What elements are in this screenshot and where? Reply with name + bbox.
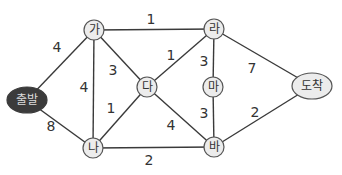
edge-weight-da-ra: 1 bbox=[167, 47, 176, 63]
node-label-ga: 가 bbox=[89, 23, 100, 37]
edge-weight-ma-ba: 3 bbox=[200, 105, 209, 121]
edge-weight-start-na: 8 bbox=[47, 118, 56, 134]
edge-weight-da-na: 1 bbox=[107, 100, 116, 116]
edge-weight-da-ba: 4 bbox=[167, 117, 176, 133]
edge-weight-ga-da: 3 bbox=[109, 62, 118, 78]
edge-weight-ga-na: 4 bbox=[80, 79, 89, 95]
node-ra: 라 bbox=[204, 19, 224, 39]
edge-ga-da bbox=[94, 30, 147, 87]
edge-na-ba bbox=[93, 147, 214, 148]
edge-weight-ga-ra: 1 bbox=[147, 11, 156, 27]
node-ga: 가 bbox=[84, 20, 104, 40]
edge-ga-na bbox=[93, 30, 94, 148]
node-label-start: 출발 bbox=[16, 93, 38, 107]
node-end: 도착 bbox=[292, 73, 332, 99]
edge-weight-start-ga: 4 bbox=[53, 39, 62, 55]
graph-diagram: 4814311433722 출발가나다라마바도착 bbox=[0, 0, 342, 175]
edge-weight-na-ba: 2 bbox=[145, 152, 154, 168]
edge-weight-ra-end: 7 bbox=[248, 60, 257, 76]
node-ba: 바 bbox=[204, 137, 224, 157]
node-label-da: 다 bbox=[142, 80, 153, 94]
node-label-na: 나 bbox=[88, 141, 99, 155]
node-start: 출발 bbox=[7, 87, 47, 113]
node-label-ra: 라 bbox=[209, 22, 220, 36]
node-label-ba: 바 bbox=[209, 140, 220, 154]
node-ma: 마 bbox=[203, 77, 223, 97]
edge-da-na bbox=[93, 87, 147, 148]
node-na: 나 bbox=[83, 138, 103, 158]
node-label-end: 도착 bbox=[301, 79, 323, 93]
node-label-ma: 마 bbox=[208, 80, 219, 94]
edge-ga-ra bbox=[94, 29, 214, 30]
edge-weight-ra-ma: 3 bbox=[200, 53, 209, 69]
edge-weight-ba-end: 2 bbox=[251, 104, 260, 120]
node-da: 다 bbox=[137, 77, 157, 97]
